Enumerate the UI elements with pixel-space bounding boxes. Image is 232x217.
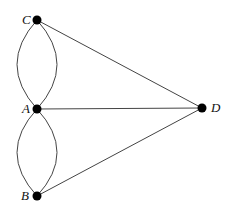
edges xyxy=(17,20,202,196)
edge-b-d xyxy=(37,108,202,196)
graph-diagram: C A B D xyxy=(0,0,232,217)
label-c: C xyxy=(22,12,31,27)
node-a xyxy=(33,105,42,114)
edge-a-d xyxy=(37,108,202,109)
node-c xyxy=(33,16,42,25)
edge-a-b-left xyxy=(17,109,37,196)
edge-c-d xyxy=(37,20,202,108)
edge-c-a-right xyxy=(37,20,57,109)
edge-a-b-right xyxy=(37,109,57,196)
label-d: D xyxy=(210,100,221,115)
node-d xyxy=(198,104,207,113)
node-b xyxy=(33,192,42,201)
label-a: A xyxy=(21,101,30,116)
label-b: B xyxy=(21,188,29,203)
edge-c-a-left xyxy=(17,20,37,109)
